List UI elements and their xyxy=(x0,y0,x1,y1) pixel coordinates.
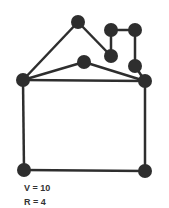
graph-vertex xyxy=(138,74,152,88)
planar-graph-diagram xyxy=(0,0,169,208)
graph-vertex xyxy=(128,23,142,37)
graph-edges xyxy=(23,22,145,171)
graph-vertex xyxy=(71,15,85,29)
graph-vertex xyxy=(138,164,152,178)
vertex-count-label: V = 10 xyxy=(24,184,50,193)
graph-edge xyxy=(23,80,145,81)
graph-vertex xyxy=(17,163,31,177)
graph-nodes xyxy=(16,15,152,178)
graph-edge xyxy=(24,170,145,171)
graph-vertex xyxy=(128,59,142,73)
region-count-label: R = 4 xyxy=(24,198,46,207)
graph-edge xyxy=(23,80,24,170)
graph-vertex xyxy=(77,55,91,69)
graph-vertex xyxy=(104,49,118,63)
graph-vertex xyxy=(104,23,118,37)
graph-vertex xyxy=(16,73,30,87)
